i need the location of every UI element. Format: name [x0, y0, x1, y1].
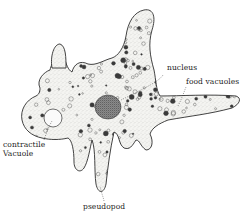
food-vacuole: [154, 96, 157, 99]
food-vacuole: [204, 95, 207, 98]
food-vacuole: [150, 98, 153, 101]
food-vacuole: [128, 108, 132, 112]
vacuole: [112, 143, 116, 147]
vacuole: [86, 165, 88, 167]
food-vacuole: [48, 88, 51, 91]
food-vacuole: [230, 105, 233, 108]
label-contractile-vacuole-line1: contractile: [3, 141, 45, 149]
vacuole: [124, 163, 126, 165]
food-vacuole: [121, 58, 126, 63]
food-vacuole: [103, 131, 108, 136]
vacuole: [112, 155, 115, 158]
food-vacuole: [129, 94, 134, 99]
food-vacuole: [106, 151, 108, 153]
food-vacuole: [79, 94, 81, 96]
vacuole: [132, 169, 134, 171]
cytoplasm-stipple: [22, 10, 240, 192]
food-vacuole: [127, 149, 129, 151]
label-contractile-vacuole-line2: Vacuole: [3, 150, 33, 158]
food-vacuole: [126, 100, 129, 103]
food-vacuole: [124, 45, 128, 49]
food-vacuole: [149, 93, 152, 96]
amoeba-illustration: [0, 0, 243, 221]
contractile-vacuole: [44, 109, 62, 127]
food-vacuole: [41, 114, 44, 117]
food-vacuole: [79, 129, 83, 133]
food-vacuole: [141, 54, 143, 56]
nucleus: [95, 95, 121, 119]
food-vacuole: [77, 85, 79, 87]
food-vacuole: [151, 105, 154, 108]
food-vacuole: [82, 77, 84, 79]
label-nucleus: nucleus: [167, 64, 197, 72]
food-vacuole: [29, 116, 32, 119]
food-vacuole: [136, 65, 140, 69]
vacuole: [120, 165, 123, 168]
label-food-vacuoles: food vacuoles: [186, 78, 239, 86]
food-vacuole: [195, 97, 198, 100]
food-vacuole: [30, 126, 33, 129]
food-vacuole: [170, 99, 175, 104]
food-vacuole: [123, 129, 127, 133]
food-vacuole: [143, 67, 146, 70]
food-vacuole: [72, 86, 74, 88]
vacuole: [119, 146, 122, 149]
food-vacuole: [127, 175, 130, 178]
food-vacuole: [84, 147, 86, 149]
label-pseudopod: pseudopod: [83, 203, 125, 211]
food-vacuole: [82, 65, 86, 69]
food-vacuole: [153, 88, 157, 92]
food-vacuole: [132, 63, 135, 66]
vacuole: [124, 158, 126, 160]
food-vacuole: [164, 111, 169, 116]
food-vacuole: [125, 66, 127, 68]
food-vacuole: [100, 142, 102, 144]
food-vacuole: [112, 61, 116, 65]
vacuole: [109, 168, 112, 171]
food-vacuole: [105, 85, 107, 87]
vacuole: [125, 169, 127, 171]
vacuole: [111, 178, 115, 182]
food-vacuole: [87, 124, 90, 127]
food-vacuole: [115, 73, 120, 78]
food-vacuole: [125, 51, 128, 54]
vacuole: [134, 171, 137, 174]
amoeba-diagram: nucleus food vacuoles contractile Vacuol…: [0, 0, 243, 221]
